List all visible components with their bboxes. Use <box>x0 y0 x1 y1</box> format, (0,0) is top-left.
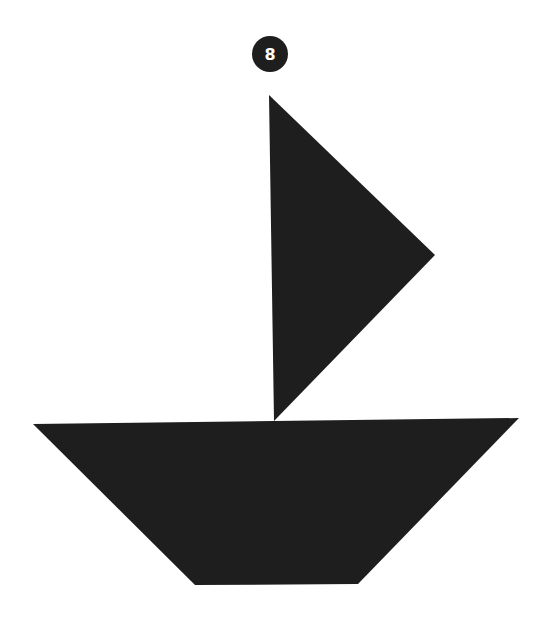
hull-shape <box>33 418 519 585</box>
tangram-board: 8 <box>0 0 548 617</box>
sailboat-silhouette <box>0 0 548 617</box>
sail-shape <box>269 95 435 421</box>
